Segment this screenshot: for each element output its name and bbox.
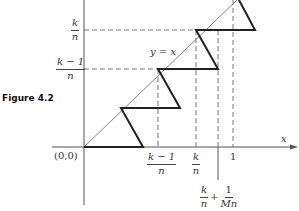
x-tick-k-over-n: k n	[192, 152, 200, 176]
origin-label: (0,0)	[54, 151, 78, 161]
sawtooth-function	[84, 0, 255, 147]
plus-sign: +	[210, 192, 218, 202]
sawtooth-diagram	[0, 0, 299, 211]
x-tick-one: 1	[230, 152, 236, 162]
term2-fraction: 1 Mn	[220, 185, 237, 209]
figure-caption: Figure 4.2	[2, 93, 54, 103]
x-axis-label: x	[281, 134, 287, 144]
y-tick-k-1-over-n: k − 1 n	[56, 57, 85, 81]
term1-fraction: k n	[200, 185, 208, 209]
y-tick-k-over-n: k n	[71, 18, 79, 42]
x-axis-arrow-icon	[290, 145, 298, 150]
x-tick-k-1-over-n: k − 1 n	[147, 152, 176, 176]
x-label-k-over-n-plus-1-over-Mn: k n + 1 Mn	[200, 185, 237, 209]
diagonal-label: y = x	[150, 47, 176, 57]
